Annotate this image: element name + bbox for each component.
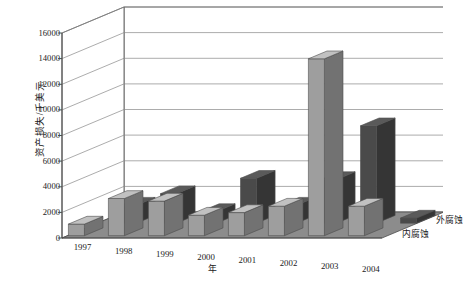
x-tick-label-1998: 1998 (115, 246, 133, 256)
bar (308, 51, 343, 236)
legend-label-inner-corrosion: 内腐蚀 (402, 227, 429, 240)
x-tick-label-2000: 2000 (197, 252, 215, 262)
x-axis-title: 年 (208, 262, 217, 275)
x-tick-label-1999: 1999 (156, 249, 174, 259)
figure-caption (0, 286, 443, 296)
legend-label-outer-corrosion: 外腐蚀 (436, 213, 463, 226)
x-tick-label-2003: 2003 (321, 261, 339, 271)
x-tick-label-2004: 2004 (362, 264, 380, 274)
bar (148, 193, 183, 235)
x-tick-label-2002: 2002 (280, 258, 298, 268)
bar (108, 191, 143, 236)
x-tick-label-1997: 1997 (74, 242, 92, 252)
y-axis-line (58, 33, 62, 238)
bar (268, 198, 303, 235)
bar (348, 198, 383, 235)
x-tick-label-2001: 2001 (239, 255, 257, 265)
